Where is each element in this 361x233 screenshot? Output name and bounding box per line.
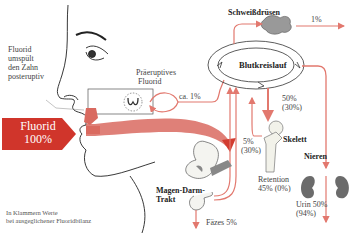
urine-line2: (94%) <box>296 209 327 218</box>
posteruptive-note-line2: umspült <box>8 54 44 63</box>
sweat-share: 1% <box>311 15 322 24</box>
footnote: In Klammern Werte bei ausgeglichener Flu… <box>6 209 91 225</box>
urine-line1: Urin 50% <box>296 200 327 209</box>
footnote-line1: In Klammern Werte <box>6 209 91 217</box>
retention-label: Retention 45% (0%) <box>258 175 291 193</box>
source-label-line2: 100% <box>5 133 71 146</box>
posteruptive-note-line1: Fluorid <box>8 45 44 54</box>
skeleton-label: Skelett <box>283 135 307 144</box>
preeruptive-label: Präeruptives Fluorid <box>136 68 176 86</box>
urine-share: Urin 50% (94%) <box>296 200 327 218</box>
from-skeleton-line1: 5% <box>241 137 261 146</box>
preeruptive-share: ca. 1% <box>179 92 201 101</box>
face-profile-icon <box>57 5 155 233</box>
to-skeleton-line2: (30%) <box>282 103 302 112</box>
sweat-gland-icon <box>261 16 291 35</box>
gi-tract-line2: Trakt <box>156 195 205 204</box>
retention-line1: Retention <box>258 175 291 184</box>
posteruptive-note-line4: posteruptiv <box>8 72 44 81</box>
gi-tract-label: Magen-Darm- Trakt <box>156 186 205 204</box>
kidneys-label: Nieren <box>304 152 327 161</box>
swallow-flow-arrow <box>86 118 230 146</box>
posteruptive-note: Fluorid umspült den Zahn posteruptiv <box>8 45 44 81</box>
fluoride-metabolism-diagram: Fluorid umspült den Zahn posteruptiv Flu… <box>0 0 361 233</box>
footnote-line2: bei ausgeglichener Fluoridbilanz <box>6 217 91 225</box>
from-skeleton-share: 5% (30%) <box>241 137 261 155</box>
preeruptive-label-line1: Präeruptives <box>136 68 176 77</box>
preeruptive-label-line2: Fluorid <box>136 77 176 86</box>
kidneys-icon <box>301 176 349 198</box>
from-skeleton-line2: (30%) <box>241 146 261 155</box>
to-skeleton-line1: 50% <box>282 94 302 103</box>
circulation-label: Blutkreislauf <box>239 61 287 70</box>
posteruptive-note-line3: den Zahn <box>8 63 44 72</box>
sweat-glands-label: Schweißdrüsen <box>228 8 280 17</box>
tooth-box <box>88 89 153 114</box>
to-skeleton-share: 50% (30%) <box>282 94 302 112</box>
retention-line2: 45% (0%) <box>258 184 291 193</box>
gi-tract-line1: Magen-Darm- <box>156 186 205 195</box>
tooth-icon <box>84 108 98 125</box>
skeleton-bone-icon <box>264 121 283 172</box>
fluoride-source-label: Fluorid 100% <box>5 120 71 150</box>
feces-share: Fäzes 5% <box>206 218 237 227</box>
